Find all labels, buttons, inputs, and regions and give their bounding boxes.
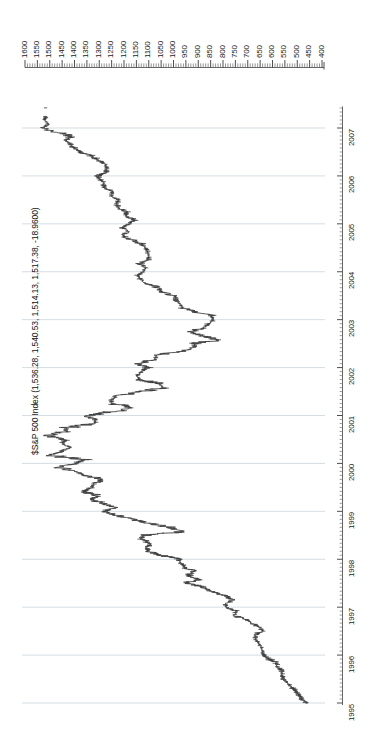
- value-axis-tick-label: 1450: [57, 41, 66, 58]
- price-series-line: [0, 62, 340, 722]
- value-axis-tick-label: 1050: [156, 41, 165, 58]
- value-axis-tick-label: 450: [304, 45, 313, 58]
- time-axis-tick-label: 2005: [347, 224, 356, 241]
- value-axis-tick-label: 650: [255, 45, 264, 58]
- time-axis-tick-label: 2004: [347, 272, 356, 289]
- time-axis-tick-label: 2002: [347, 368, 356, 385]
- time-axis-tick-label: 2000: [347, 464, 356, 481]
- value-axis-tick-label: 1000: [168, 41, 177, 58]
- value-axis-tick-label: 500: [292, 45, 301, 58]
- value-axis-tick-label: 1300: [94, 41, 103, 58]
- value-axis-tick-label: 900: [193, 45, 202, 58]
- value-axis-tick-label: 1550: [32, 41, 41, 58]
- chart-root: 1600155015001450140013501300125012001150…: [0, 0, 371, 736]
- time-axis-tick-label: 1998: [347, 560, 356, 577]
- value-axis-tick-label: 1250: [106, 41, 115, 58]
- value-axis-tick-label: 550: [279, 45, 288, 58]
- time-axis: 2007200620052004200320022001200019991998…: [335, 0, 371, 736]
- value-axis: 1600155015001450140013501300125012001150…: [0, 0, 371, 62]
- chart-title: $S&P 500 Index (1,536.28, 1,540.53, 1,51…: [30, 207, 40, 455]
- value-axis-tick-label: 1100: [143, 42, 152, 58]
- value-axis-tick-label: 950: [180, 45, 189, 58]
- value-axis-tick-label: 600: [267, 45, 276, 58]
- time-axis-tick-label: 2003: [347, 320, 356, 337]
- time-axis-tick-label: 1997: [347, 608, 356, 625]
- time-axis-tick-label: 2001: [347, 416, 356, 433]
- time-axis-tick-label: 2007: [347, 129, 356, 146]
- value-axis-tick-label: 1350: [81, 41, 90, 58]
- value-axis-tick-label: 700: [242, 45, 251, 58]
- value-axis-tick-label: 850: [205, 45, 214, 58]
- price-line-path: [41, 116, 307, 703]
- plot-area: [0, 62, 340, 722]
- value-axis-tick-label: 1500: [44, 41, 53, 58]
- time-axis-tick-label: 1999: [347, 512, 356, 529]
- value-axis-tick-label: 750: [230, 45, 239, 58]
- value-axis-tick-label: 800: [218, 45, 227, 58]
- time-axis-tick-label: 1996: [347, 656, 356, 673]
- time-axis-tick-label: 1995: [347, 704, 356, 721]
- value-axis-tick-label: 1600: [20, 41, 29, 58]
- time-axis-tick-label: 2006: [347, 176, 356, 193]
- value-axis-tick-label: 1400: [69, 41, 78, 58]
- value-axis-tick-label: 1150: [131, 42, 140, 58]
- value-axis-tick-label: 1200: [119, 41, 128, 58]
- value-axis-tick-label: 400: [317, 45, 326, 58]
